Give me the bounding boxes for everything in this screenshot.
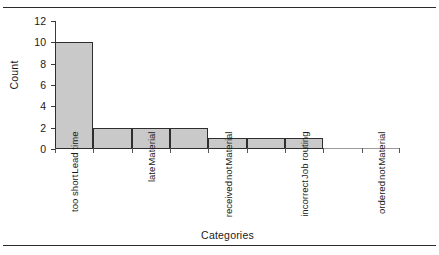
y-tick-label: 2 bbox=[26, 123, 46, 133]
x-category-label-line: not bbox=[375, 167, 386, 180]
x-category-label-line: Material bbox=[222, 132, 233, 166]
y-axis-title: Count bbox=[8, 45, 20, 105]
x-category-label: Lead timetoo short bbox=[39, 157, 109, 227]
y-tick-label: 0 bbox=[26, 144, 46, 154]
x-category-label: Materialnotordered bbox=[346, 157, 416, 227]
x-category-label-text: Materialnotordered bbox=[375, 132, 386, 242]
x-category-label-text: Materialnotreceived bbox=[222, 132, 233, 242]
x-category-label-text: Materiallate bbox=[145, 132, 156, 242]
chart-figure: Count 024681012 Lead timetoo shortMateri… bbox=[0, 0, 439, 255]
x-category-label-line: too short bbox=[69, 175, 80, 212]
x-category-label-text: Job routingincorrect bbox=[299, 132, 310, 242]
x-category-label-line: not bbox=[222, 167, 233, 180]
y-tick-label: 4 bbox=[26, 101, 46, 111]
x-category-label: Materiallate bbox=[116, 157, 186, 227]
x-category-label-line: late bbox=[145, 167, 156, 182]
x-tick-mark bbox=[323, 148, 324, 153]
x-category-label-line: incorrect bbox=[299, 180, 310, 217]
x-category-label: Materialnotreceived bbox=[193, 157, 263, 227]
bar bbox=[93, 128, 131, 149]
bar-series bbox=[55, 21, 400, 149]
x-category-label-line: Material bbox=[375, 132, 386, 166]
x-tick-mark bbox=[170, 148, 171, 153]
x-tick-mark bbox=[208, 148, 209, 153]
x-axis-title: Categories bbox=[55, 229, 400, 241]
x-tick-mark bbox=[247, 148, 248, 153]
x-tick-mark bbox=[362, 148, 363, 153]
x-category-label-text: Lead timetoo short bbox=[69, 132, 80, 242]
x-axis-category-labels: Lead timetoo shortMateriallateMaterialno… bbox=[55, 157, 400, 229]
bar bbox=[170, 128, 208, 149]
y-tick-label: 12 bbox=[26, 16, 46, 26]
x-category-label-line: ordered bbox=[375, 181, 386, 214]
y-tick-label: 10 bbox=[26, 37, 46, 47]
x-tick-mark bbox=[399, 148, 400, 153]
x-tick-mark bbox=[132, 148, 133, 153]
x-tick-mark bbox=[55, 148, 56, 153]
plot-region: Count 024681012 Lead timetoo shortMateri… bbox=[0, 7, 439, 245]
x-tick-mark bbox=[285, 148, 286, 153]
x-category-label-line: Lead time bbox=[69, 132, 80, 174]
y-tick-label: 8 bbox=[26, 59, 46, 69]
x-category-label-line: received bbox=[222, 181, 233, 217]
x-category-label-line: Job routing bbox=[299, 132, 310, 179]
y-tick-label: 6 bbox=[26, 80, 46, 90]
x-category-label: Job routingincorrect bbox=[269, 157, 339, 227]
x-tick-mark bbox=[93, 148, 94, 153]
x-category-label-line: Material bbox=[145, 132, 156, 166]
figure-bottom-rule bbox=[3, 245, 436, 246]
